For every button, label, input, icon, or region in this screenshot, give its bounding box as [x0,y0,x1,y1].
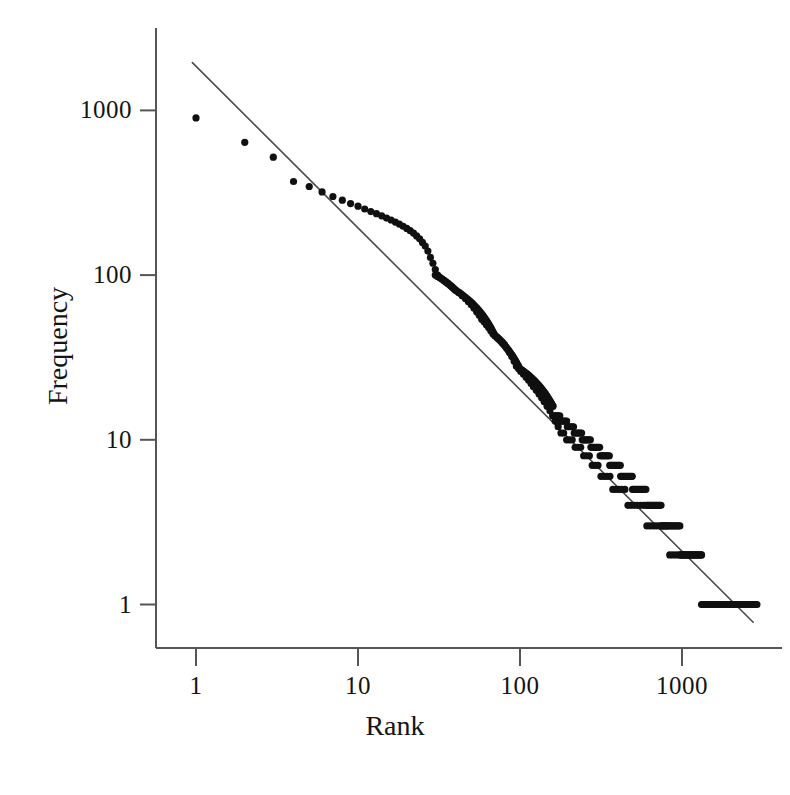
data-point [753,601,760,608]
data-point [596,444,603,451]
data-point [629,473,636,480]
zipf-plot-figure: Frequency Rank 1101001000 1101001000 [0,0,790,795]
y-tick-label-100: 100 [93,261,132,289]
y-axis-label: Frequency [42,256,74,436]
data-point [586,452,593,459]
data-point [606,452,613,459]
data-point [424,247,431,254]
data-point [306,183,313,190]
data-point [290,178,297,185]
x-axis-ticks [196,648,682,666]
x-tick-label-1000: 1000 [656,672,708,700]
data-point [606,473,613,480]
data-point [270,154,277,161]
x-tick-label-100: 100 [501,672,540,700]
data-point [241,139,248,146]
data-point [192,114,199,121]
power-law-fit-line [192,63,753,623]
data-point-markers [192,114,760,608]
data-point [354,203,361,210]
data-point [676,522,683,529]
data-point [549,403,556,410]
y-tick-label-1000: 1000 [80,96,132,124]
y-tick-label-10: 10 [106,426,132,454]
y-axis-ticks [140,110,156,604]
data-point [556,412,563,419]
data-point [329,193,336,200]
data-point [429,260,436,267]
data-point [642,486,649,493]
data-point [361,205,368,212]
data-point [617,462,624,469]
data-point [560,429,567,436]
data-point [578,429,585,436]
data-point [570,423,577,430]
x-tick-label-10: 10 [345,672,371,700]
y-tick-label-1: 1 [119,591,132,619]
data-point [577,444,584,451]
data-point [594,462,601,469]
x-axis-label: Rank [0,710,790,742]
data-point [318,188,325,195]
data-point [657,502,664,509]
data-point [698,551,705,558]
fit-line [192,63,753,623]
data-point [621,486,628,493]
data-point [569,436,576,443]
data-point [587,436,594,443]
data-point [563,417,570,424]
data-point [347,200,354,207]
x-tick-label-1: 1 [190,672,203,700]
data-point [339,197,346,204]
